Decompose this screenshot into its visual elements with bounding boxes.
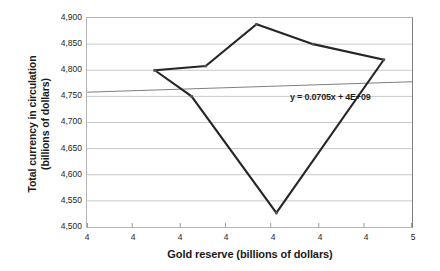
x-tick-label: 4: [75, 232, 99, 242]
y-tick-label: 4,650: [38, 144, 82, 153]
x-axis-tick-marks: [88, 223, 412, 227]
chart-container: Total currency in circulation (billions …: [0, 0, 440, 271]
y-tick-label: 4,750: [38, 91, 82, 100]
x-axis-title: Gold reserve (billions of dollars): [80, 248, 420, 260]
plot-svg: [87, 18, 412, 227]
x-tick-label: 4: [168, 232, 192, 242]
x-tick-label: 4: [354, 232, 378, 242]
x-tick-label: 4: [121, 232, 145, 242]
y-tick-label: 4,800: [38, 65, 82, 74]
x-tick-label: 4: [214, 232, 238, 242]
x-tick-label: 5: [401, 232, 425, 242]
x-tick-label: 4: [308, 232, 332, 242]
y-axis-tick-labels: 4,900 4,850 4,800 4,750 4,700 4,650 4,60…: [36, 0, 82, 271]
data-line-series: [155, 24, 384, 213]
plot-area: [86, 17, 413, 228]
x-tick-label: 4: [261, 232, 285, 242]
y-tick-label: 4,600: [38, 170, 82, 179]
y-tick-label: 4,550: [38, 196, 82, 205]
y-tick-label: 4,850: [38, 39, 82, 48]
y-tick-label: 4,500: [38, 222, 82, 231]
y-tick-label: 4,700: [38, 117, 82, 126]
y-tick-label: 4,900: [38, 13, 82, 22]
trendline-equation-label: y = 0.0705x + 4E+09: [290, 92, 371, 102]
